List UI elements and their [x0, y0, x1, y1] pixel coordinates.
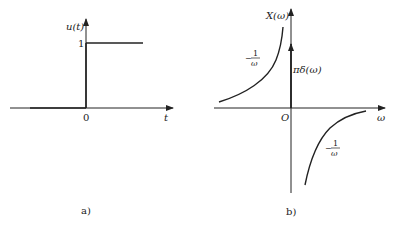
- svg-text:1: 1: [333, 139, 338, 148]
- figure-b-spectrum: X(ω) − 1 ω πδ(ω) O ω − 1 ω b): [214, 9, 385, 217]
- svg-text:1: 1: [253, 49, 258, 58]
- y-axis-label: u(t): [66, 21, 84, 32]
- level-one-label: 1: [78, 38, 84, 49]
- origin-label: O: [281, 112, 289, 123]
- caption-a: a): [81, 205, 91, 216]
- x-axis-label: t: [164, 112, 169, 123]
- x-axis-label: ω: [377, 112, 385, 123]
- figure-canvas: u(t) 1 0 t a) X(ω) − 1 ω πδ(ω) O ω − 1 ω…: [0, 0, 393, 228]
- svg-text:ω: ω: [251, 59, 258, 68]
- y-axis-label: X(ω): [265, 10, 289, 21]
- right-curve-label: − 1 ω: [325, 139, 340, 158]
- impulse-label: πδ(ω): [292, 64, 322, 75]
- caption-b: b): [286, 206, 296, 217]
- svg-text:ω: ω: [331, 149, 338, 158]
- left-curve-label: − 1 ω: [245, 49, 260, 68]
- figure-a-unit-step: u(t) 1 0 t a): [10, 19, 173, 216]
- origin-label: 0: [83, 112, 89, 123]
